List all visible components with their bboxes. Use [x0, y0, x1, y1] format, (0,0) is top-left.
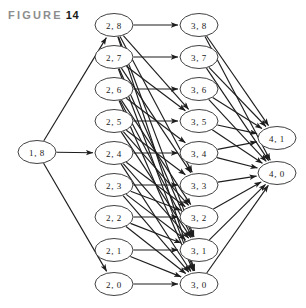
- node-label: 4, 0: [269, 169, 285, 179]
- graph-edge: [218, 176, 257, 182]
- node-label: 2, 4: [106, 149, 122, 159]
- graph-node[interactable]: 3, 6: [180, 78, 218, 101]
- graph-node[interactable]: 4, 0: [258, 162, 296, 185]
- graph-edge: [217, 158, 257, 168]
- node-label: 2, 5: [106, 117, 122, 127]
- node-label: 2, 1: [106, 246, 122, 256]
- graph-node[interactable]: 1, 8: [18, 141, 56, 164]
- graph-node[interactable]: 3, 2: [180, 206, 218, 229]
- node-label: 3, 4: [191, 149, 207, 159]
- node-label: 3, 2: [191, 213, 207, 223]
- node-label: 2, 0: [106, 280, 122, 290]
- graph-node[interactable]: 3, 7: [180, 46, 218, 69]
- graph-node[interactable]: 2, 6: [95, 78, 133, 101]
- graph-edge: [209, 184, 265, 240]
- node-label: 2, 7: [106, 53, 122, 63]
- node-label: 3, 6: [191, 85, 207, 95]
- graph-node[interactable]: 3, 0: [180, 273, 218, 296]
- node-label: 3, 7: [191, 53, 207, 63]
- edges-layer: [44, 25, 271, 284]
- graph-diagram: 1, 82, 82, 72, 62, 52, 42, 32, 22, 12, 0…: [0, 0, 306, 308]
- graph-edge: [123, 36, 188, 110]
- graph-node[interactable]: 3, 4: [180, 142, 218, 165]
- graph-node[interactable]: 2, 0: [95, 273, 133, 296]
- graph-node[interactable]: 3, 3: [180, 174, 218, 197]
- graph-edge: [130, 257, 181, 277]
- node-label: 3, 8: [191, 21, 207, 31]
- node-label: 3, 5: [191, 117, 207, 127]
- node-label: 1, 8: [29, 148, 45, 158]
- graph-edge: [118, 37, 194, 237]
- node-label: 2, 2: [106, 213, 122, 223]
- graph-node[interactable]: 3, 8: [180, 14, 218, 37]
- node-label: 2, 6: [106, 85, 122, 95]
- graph-node[interactable]: 2, 5: [95, 110, 133, 133]
- node-label: 3, 3: [191, 181, 207, 191]
- graph-node[interactable]: 2, 4: [95, 142, 133, 165]
- graph-edge: [207, 36, 269, 126]
- node-label: 2, 8: [106, 21, 122, 31]
- graph-node[interactable]: 3, 1: [180, 239, 218, 262]
- graph-node[interactable]: 2, 3: [95, 174, 133, 197]
- graph-edge: [123, 132, 188, 206]
- node-label: 3, 0: [191, 280, 207, 290]
- node-label: 3, 1: [191, 246, 207, 256]
- node-label: 4, 1: [269, 134, 285, 144]
- graph-node[interactable]: 2, 8: [95, 14, 133, 37]
- graph-node[interactable]: 3, 5: [180, 110, 218, 133]
- node-label: 2, 3: [106, 181, 122, 191]
- graph-edge: [207, 185, 269, 273]
- graph-edge: [213, 98, 262, 129]
- graph-node[interactable]: 4, 1: [258, 127, 296, 150]
- graph-node[interactable]: 2, 7: [95, 46, 133, 69]
- graph-node[interactable]: 2, 2: [95, 206, 133, 229]
- graph-node[interactable]: 2, 1: [95, 239, 133, 262]
- graph-edge: [217, 125, 257, 134]
